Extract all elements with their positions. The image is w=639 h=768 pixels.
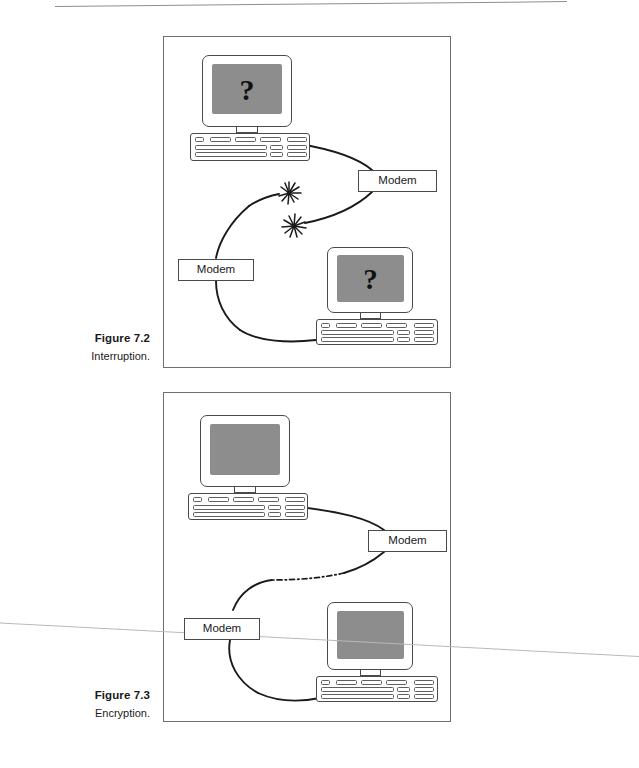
keyboard-number-row [195,145,267,150]
keyboard-fkey-group-1 [336,323,357,328]
keyboard-keypad-row-2 [414,694,434,699]
keyboard-key-escape [195,137,204,142]
figure-7-2-caption-title: Figure 7.2 [36,331,156,347]
monitor-bezel [327,602,413,670]
keyboard-keypad-row-2 [285,512,305,517]
keyboard-keypad-row-1 [414,330,434,335]
screen-question-mark: ? [212,75,282,105]
keyboard-nav-cluster [397,687,410,692]
keyboard-fkey-group-2 [233,497,254,502]
keyboard-letter-row [321,694,394,699]
monitor-bezel [200,415,290,487]
keyboard [188,493,308,520]
keyboard-keypad-row-1 [287,145,307,150]
keyboard-letter-row [195,152,267,157]
monitor-screen: ? [337,255,404,302]
modem-label: Modem [197,264,235,276]
keyboard-number-row [193,505,265,510]
monitor-screen [337,611,404,659]
computer-workstation-top-figure-7-3 [188,415,308,525]
figure-7-3-caption: Figure 7.3 Encryption. [36,688,156,720]
modem-right-figure-7-2: Modem [358,170,437,192]
keyboard-keypad-row-2 [414,337,434,342]
modem-label: Modem [388,535,426,547]
keyboard-letter-row [321,337,394,342]
keyboard-key-escape [321,680,330,685]
monitor-screen: ? [212,64,282,114]
keyboard-key-escape [321,323,330,328]
monitor-screen [210,424,280,475]
figure-7-3-caption-subtitle: Encryption. [36,706,156,721]
keyboard-arrow-cluster [397,694,410,699]
keyboard-nav-cluster [397,330,410,335]
computer-workstation-bottom-figure-7-3 [316,602,438,706]
monitor-bezel: ? [202,55,292,127]
keyboard-keypad-top [414,680,434,685]
keyboard-fkey-group-3 [258,497,279,502]
keyboard-fkey-group-3 [386,323,407,328]
keyboard-fkey-group-3 [386,680,407,685]
keyboard-number-row [321,330,394,335]
keyboard-fkey-group-2 [361,323,382,328]
keyboard [316,319,438,345]
computer-workstation-bottom-figure-7-2: ? [316,247,438,351]
screen-question-mark: ? [337,265,404,294]
keyboard-keypad-top [414,323,434,328]
keyboard-fkey-group-3 [260,137,281,142]
monitor-bezel: ? [327,247,413,313]
figure-7-2-caption-subtitle: Interruption. [36,349,156,364]
modem-left-figure-7-3: Modem [184,618,260,640]
modem-left-figure-7-2: Modem [178,259,254,281]
keyboard-fkey-group-1 [208,497,229,502]
modem-label: Modem [378,175,416,187]
keyboard [190,133,310,161]
keyboard-keypad-row-1 [414,687,434,692]
keyboard-nav-cluster [270,145,283,150]
figure-7-3-caption-title: Figure 7.3 [36,688,156,704]
keyboard-fkey-group-1 [336,680,357,685]
modem-label: Modem [203,623,241,635]
page-header-rule [55,1,567,7]
keyboard-keypad-row-2 [287,152,307,157]
keyboard-keypad-top [287,137,307,142]
keyboard-number-row [321,687,394,692]
modem-right-figure-7-3: Modem [368,530,447,552]
figure-7-2-caption: Figure 7.2 Interruption. [36,331,156,363]
keyboard-arrow-cluster [270,152,283,157]
keyboard-arrow-cluster [397,337,410,342]
keyboard-keypad-top [285,497,305,502]
keyboard-fkey-group-1 [210,137,231,142]
keyboard-letter-row [193,512,265,517]
keyboard [316,676,438,702]
keyboard-nav-cluster [268,505,281,510]
keyboard-key-escape [193,497,202,502]
keyboard-fkey-group-2 [235,137,256,142]
keyboard-keypad-row-1 [285,505,305,510]
keyboard-fkey-group-2 [361,680,382,685]
computer-workstation-top-figure-7-2: ? [190,55,310,167]
keyboard-arrow-cluster [268,512,281,517]
